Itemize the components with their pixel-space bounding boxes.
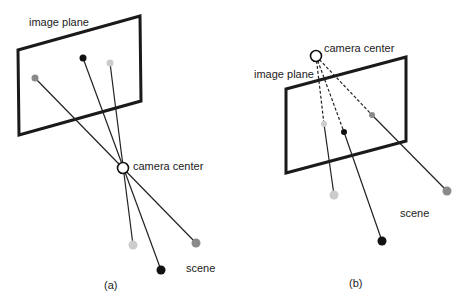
scene-label-a: scene [186, 263, 215, 274]
image-point-gray [32, 75, 39, 82]
diagram-canvas [0, 0, 473, 300]
image-point-light [107, 60, 114, 67]
image-point-black [80, 55, 87, 62]
camera-center-label-b: camera center [324, 43, 394, 54]
image-point-gray [369, 112, 375, 118]
image-point-black [341, 129, 347, 135]
scene-label-b: scene [400, 208, 429, 219]
panel-a [18, 16, 201, 275]
camera-center-label-a: camera center [133, 161, 203, 172]
scene-point-light [330, 191, 339, 200]
diagram: image plane camera center scene (a) imag… [0, 0, 473, 300]
image-plane-label-b: image plane [254, 69, 314, 80]
scene-point-gray [443, 187, 452, 196]
scene-point-black [378, 237, 387, 246]
scene-point-light [129, 241, 138, 250]
caption-b: (b) [349, 278, 362, 289]
caption-a: (a) [104, 280, 117, 291]
scene-point-black [157, 266, 166, 275]
image-plane-label-a: image plane [29, 17, 89, 28]
camera-center-b [311, 51, 322, 62]
image-point-light [321, 121, 327, 127]
scene-point-gray [192, 239, 201, 248]
camera-center-a [118, 163, 129, 174]
